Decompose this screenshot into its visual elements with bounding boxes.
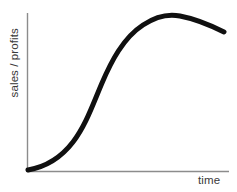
s-curve-line: [28, 15, 224, 170]
y-axis-label: sales / profits: [9, 21, 21, 105]
x-axis-label: time: [198, 175, 220, 187]
chart-plot-area: [0, 0, 237, 192]
product-life-cycle-chart: sales / profits time: [0, 0, 237, 192]
